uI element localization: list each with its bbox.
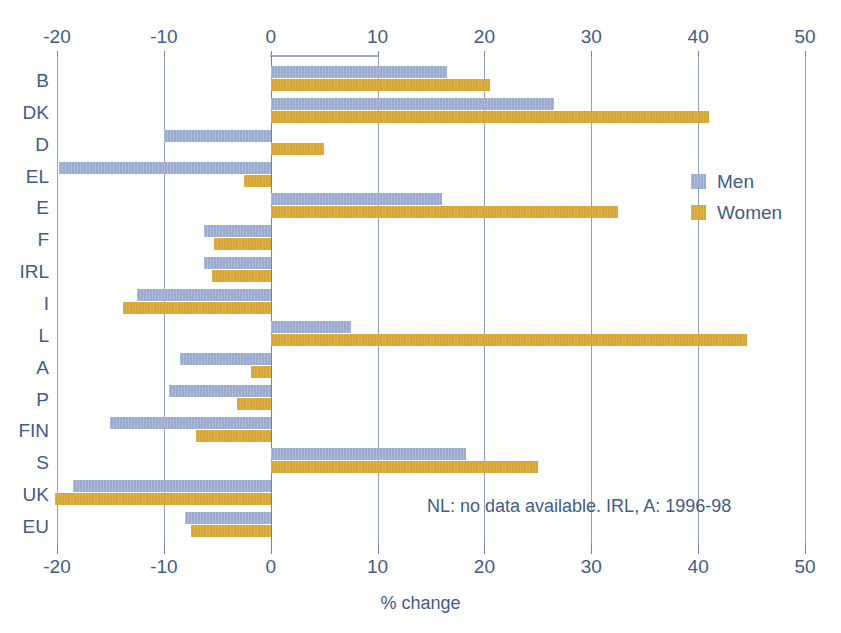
category-label-l: L: [3, 326, 49, 345]
bar-eu-women: [191, 525, 271, 537]
bar-uk-men: [73, 480, 271, 492]
bar-el-women: [244, 175, 271, 187]
bar-a-women: [251, 366, 270, 378]
bar-i-men: [137, 289, 271, 301]
legend-swatch-men-icon: [691, 174, 706, 189]
legend-item-men: Men: [691, 172, 782, 191]
bar-group-l: [57, 319, 805, 351]
bar-b-women: [271, 79, 490, 91]
bar-s-women: [271, 461, 538, 473]
bar-group-fin: [57, 415, 805, 447]
top-tick-label-40: 40: [668, 26, 728, 48]
x-axis-label: % change: [0, 593, 841, 614]
legend-label-women: Women: [717, 203, 782, 222]
category-label-f: F: [3, 230, 49, 249]
bar-l-women: [271, 334, 748, 346]
top-tick-label-10: 10: [348, 26, 408, 48]
bar-e-women: [271, 206, 618, 218]
bar-group-i: [57, 287, 805, 319]
gridline-50: [805, 56, 806, 550]
category-label-s: S: [3, 453, 49, 472]
bar-group-s: [57, 446, 805, 478]
category-label-irl: IRL: [3, 262, 49, 281]
bar-fin-men: [110, 417, 270, 429]
category-label-a: A: [3, 358, 49, 377]
chart-container: -20-1001020304050 BDKDELEFIRLILAPFINSUKE…: [0, 0, 841, 633]
bar-p-men: [169, 385, 271, 397]
category-label-d: D: [3, 135, 49, 154]
chart-note: NL: no data available. IRL, A: 1996-98: [427, 496, 731, 517]
plot-area: [57, 64, 805, 542]
bottom-tick-label-50: 50: [775, 556, 835, 578]
bar-uk-women: [55, 493, 271, 505]
bar-group-p: [57, 383, 805, 415]
bar-l-men: [271, 321, 351, 333]
bottom-tick-mark--20: [57, 543, 58, 554]
bar-group-d: [57, 128, 805, 160]
bottom-tick-label-40: 40: [668, 556, 728, 578]
bottom-tick-mark-0: [271, 543, 272, 554]
bottom-tick-mark--10: [164, 543, 165, 554]
bottom-tick-mark-10: [378, 543, 379, 554]
category-label-dk: DK: [3, 103, 49, 122]
bar-eu-men: [185, 512, 270, 524]
bar-i-women: [123, 302, 270, 314]
bar-group-a: [57, 351, 805, 383]
bar-dk-women: [271, 111, 709, 123]
top-axis-rule: [270, 55, 378, 57]
bottom-tick-mark-20: [484, 543, 485, 554]
bar-d-men: [164, 130, 271, 142]
category-label-fin: FIN: [3, 421, 49, 440]
top-tick-label-30: 30: [561, 26, 621, 48]
bar-irl-men: [204, 257, 270, 269]
bar-d-women: [271, 143, 324, 155]
bar-irl-women: [212, 270, 271, 282]
top-tick-label-0: 0: [241, 26, 301, 48]
bottom-tick-label-20: 20: [454, 556, 514, 578]
category-label-eu: EU: [3, 517, 49, 536]
category-label-uk: UK: [3, 485, 49, 504]
legend-label-men: Men: [717, 172, 754, 191]
bottom-tick-label-30: 30: [561, 556, 621, 578]
bottom-tick-label--20: -20: [27, 556, 87, 578]
bar-b-men: [271, 66, 447, 78]
top-tick-label--20: -20: [27, 26, 87, 48]
bar-f-women: [214, 238, 271, 250]
bar-group-dk: [57, 96, 805, 128]
category-axis: BDKDELEFIRLILAPFINSUKEU: [0, 64, 49, 542]
bar-el-men: [59, 162, 271, 174]
bar-f-men: [204, 225, 270, 237]
legend-item-women: Women: [691, 203, 782, 222]
bar-fin-women: [196, 430, 271, 442]
category-label-el: EL: [3, 167, 49, 186]
bar-p-women: [237, 398, 271, 410]
bottom-tick-label--10: -10: [134, 556, 194, 578]
bar-group-irl: [57, 255, 805, 287]
bar-s-men: [271, 448, 467, 460]
category-label-i: I: [3, 294, 49, 313]
bar-dk-men: [271, 98, 554, 110]
legend-swatch-women-icon: [691, 205, 706, 220]
bottom-tick-mark-50: [805, 543, 806, 554]
bottom-tick-label-0: 0: [241, 556, 301, 578]
category-label-b: B: [3, 71, 49, 90]
category-label-e: E: [3, 198, 49, 217]
bottom-tick-mark-30: [591, 543, 592, 554]
top-tick-label--10: -10: [134, 26, 194, 48]
bar-e-men: [271, 193, 442, 205]
legend: Men Women: [691, 172, 782, 234]
bar-a-men: [180, 353, 271, 365]
top-tick-label-50: 50: [775, 26, 835, 48]
bottom-tick-mark-40: [698, 543, 699, 554]
bottom-tick-label-10: 10: [348, 556, 408, 578]
top-tick-label-20: 20: [454, 26, 514, 48]
bar-group-b: [57, 64, 805, 96]
category-label-p: P: [3, 390, 49, 409]
